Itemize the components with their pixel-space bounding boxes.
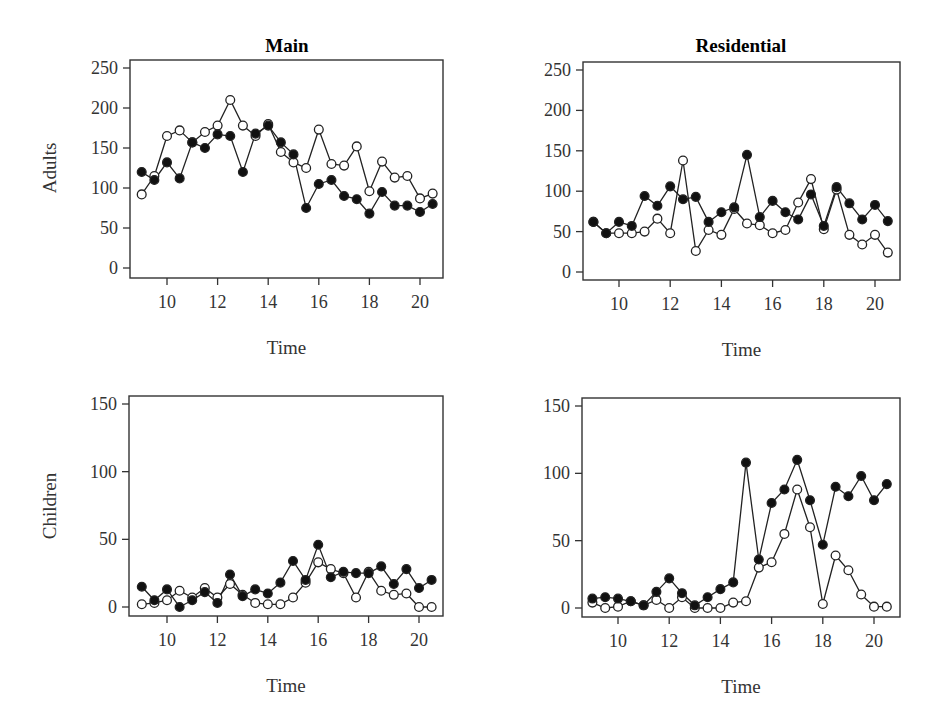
x-tick-label: 18 [815, 294, 833, 314]
filled-circle-marker [589, 218, 598, 227]
filled-circle-marker [614, 594, 623, 603]
filled-circle-marker [602, 229, 611, 238]
x-tick-label: 10 [609, 631, 627, 651]
y-tick-label: 250 [544, 60, 571, 80]
x-tick-label: 20 [866, 294, 884, 314]
open-series-line [593, 160, 887, 252]
filled-circle-marker [831, 482, 840, 491]
filled-circle-marker [251, 129, 260, 138]
panel-title-main: Main [265, 35, 309, 56]
filled-circle-marker [754, 555, 763, 564]
filled-circle-marker [807, 190, 816, 199]
open-circle-marker [276, 600, 285, 609]
y-axis-label-adults: Adults [39, 143, 60, 194]
open-circle-marker [302, 164, 311, 173]
panel-residential-adults: 050100150200250101214161820Time [544, 60, 900, 360]
filled-circle-marker [163, 585, 172, 594]
y-tick-label: 100 [543, 463, 570, 483]
filled-circle-marker [264, 121, 273, 130]
filled-circle-marker [339, 567, 348, 576]
filled-circle-marker [639, 601, 648, 610]
filled-circle-marker [678, 589, 687, 598]
filled-circle-marker [251, 585, 260, 594]
y-tick-label: 50 [99, 529, 117, 549]
open-circle-marker [640, 227, 649, 236]
filled-circle-marker [844, 492, 853, 501]
open-circle-marker [818, 600, 827, 609]
filled-circle-marker [703, 593, 712, 602]
filled-circle-marker [601, 593, 610, 602]
open-circle-marker [226, 580, 235, 589]
filled-circle-marker [402, 565, 411, 574]
filled-circle-marker [793, 455, 802, 464]
filled-circle-marker [200, 588, 209, 597]
open-circle-marker [807, 175, 816, 184]
filled-circle-marker [416, 208, 425, 217]
open-circle-marker [844, 566, 853, 575]
open-series-line [592, 489, 886, 608]
filled-circle-marker [794, 215, 803, 224]
open-circle-marker [793, 485, 802, 494]
filled-circle-marker [263, 589, 272, 598]
filled-circle-marker [163, 158, 172, 167]
filled-circle-marker [226, 132, 235, 141]
open-circle-marker [767, 558, 776, 567]
open-circle-marker [883, 248, 892, 257]
y-tick-label: 50 [552, 531, 570, 551]
filled-circle-marker [781, 208, 790, 217]
x-tick-label: 18 [814, 631, 832, 651]
filled-circle-marker [314, 180, 323, 189]
filled-circle-marker [690, 601, 699, 610]
x-tick-label: 10 [610, 294, 628, 314]
panel-main-children: 050100150101214161820Time [90, 394, 443, 696]
filled-circle-marker [378, 188, 387, 197]
filled-circle-marker [704, 218, 713, 227]
filled-series-line [142, 545, 432, 607]
open-circle-marker [427, 603, 436, 612]
open-circle-marker [352, 142, 361, 151]
y-tick-label: 0 [562, 262, 571, 282]
filled-circle-marker [883, 217, 892, 226]
filled-circle-marker [377, 562, 386, 571]
filled-circle-marker [755, 213, 764, 222]
open-series-line [142, 562, 432, 607]
filled-circle-marker [653, 201, 662, 210]
y-tick-label: 0 [108, 597, 117, 617]
y-tick-label: 150 [544, 141, 571, 161]
open-circle-marker [377, 586, 386, 595]
open-circle-marker [251, 599, 260, 608]
filled-circle-marker [665, 574, 674, 583]
open-circle-marker [416, 194, 425, 203]
open-circle-marker [601, 604, 610, 613]
open-circle-marker [781, 226, 790, 235]
filled-circle-marker [767, 499, 776, 508]
filled-circle-marker [730, 203, 739, 212]
y-tick-label: 100 [91, 178, 118, 198]
filled-circle-marker [780, 485, 789, 494]
open-circle-marker [742, 597, 751, 606]
filled-circle-marker [352, 195, 361, 204]
x-tick-label: 16 [764, 294, 782, 314]
open-circle-marker [314, 125, 323, 134]
open-circle-marker [729, 598, 738, 607]
open-circle-marker [665, 604, 674, 613]
open-circle-marker [239, 121, 248, 130]
open-circle-marker [831, 551, 840, 560]
filled-circle-marker [626, 597, 635, 606]
x-tick-label: 16 [309, 630, 327, 650]
open-circle-marker [175, 586, 184, 595]
x-tick-label: 18 [360, 630, 378, 650]
filled-circle-marker [390, 201, 399, 210]
filled-circle-marker [150, 176, 159, 185]
filled-circle-marker [364, 569, 373, 578]
filled-circle-marker [289, 150, 298, 159]
filled-circle-marker [137, 168, 146, 177]
y-tick-label: 150 [91, 138, 118, 158]
filled-circle-marker [213, 599, 222, 608]
filled-circle-marker [314, 540, 323, 549]
y-tick-label: 0 [109, 258, 118, 278]
open-circle-marker [768, 229, 777, 238]
x-tick-label: 16 [763, 631, 781, 651]
panel-residential-children: 050100150101214161820Time [543, 396, 900, 697]
x-tick-label: 14 [259, 630, 277, 650]
